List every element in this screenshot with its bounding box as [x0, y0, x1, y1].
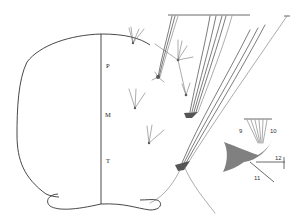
- label-12: 12: [275, 155, 282, 161]
- label-10: 10: [270, 128, 277, 134]
- body-outline: [17, 34, 161, 210]
- seta-tuft-top: [129, 27, 144, 44]
- label-m: M: [105, 111, 111, 118]
- label-t: T: [106, 157, 110, 164]
- diagram-figure: P M T: [0, 0, 304, 222]
- seta-tuft-mid: [155, 40, 193, 96]
- label-p: P: [106, 62, 110, 69]
- seta-tuft-m: [147, 125, 164, 144]
- seta-bundle-1: [152, 16, 178, 82]
- seta-bundle-2: [184, 16, 232, 118]
- label-11: 11: [254, 175, 261, 181]
- seta-bundle-3: [150, 16, 287, 213]
- seta-tuft-p: [129, 89, 145, 109]
- label-9: 9: [239, 128, 243, 134]
- inset-seta-base: 9 10 11 12: [223, 119, 285, 182]
